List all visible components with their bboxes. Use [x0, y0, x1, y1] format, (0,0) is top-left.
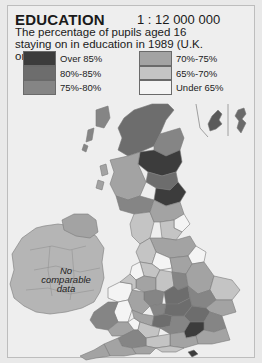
- gwynedd-region: [108, 282, 132, 302]
- cheshire-region: [136, 276, 156, 292]
- norfolk-region: [210, 276, 240, 300]
- uk-choropleth-map: [0, 0, 262, 363]
- isle-of-wight-region: [188, 350, 198, 357]
- northern-isles-inset: [196, 104, 246, 137]
- dumfries-region: [116, 196, 154, 214]
- no-data-label: No comparable data: [36, 266, 96, 293]
- western-isles-region: [96, 106, 110, 128]
- cornwall-region: [80, 344, 110, 360]
- dorset-region: [132, 346, 156, 354]
